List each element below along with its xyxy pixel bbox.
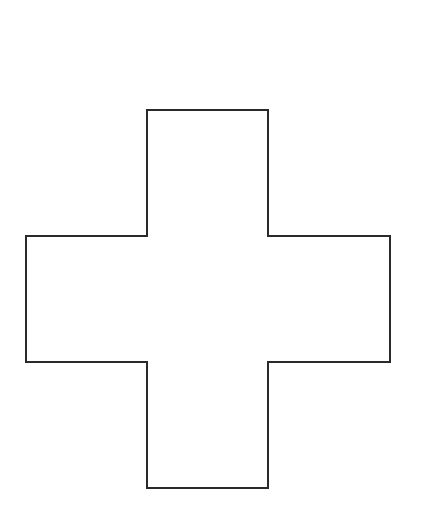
diagram-canvas (0, 0, 426, 527)
cross-diagram (0, 0, 426, 527)
cross-shape (26, 110, 390, 488)
